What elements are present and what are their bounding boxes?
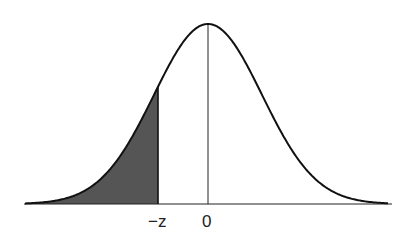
normal-curve	[25, 24, 388, 203]
normal-curve-chart: −z 0	[0, 0, 406, 237]
tick-label-zero: 0	[202, 212, 211, 231]
tick-label-neg-z: −z	[148, 212, 166, 231]
